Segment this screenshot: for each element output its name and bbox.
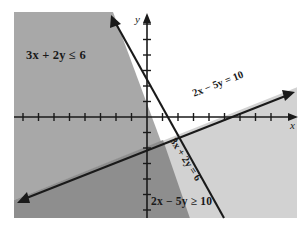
graph-canvas (0, 0, 307, 228)
label-inequality-2x-minus-5y-ge-10: 2x − 5y ≥ 10 (151, 196, 212, 208)
inequality-graph-figure: 3x + 2y ≤ 6 2x − 5y ≥ 10 2x − 5y = 10 3x… (0, 0, 307, 228)
y-axis-label: y (135, 14, 140, 25)
x-axis-label: x (290, 120, 295, 131)
label-inequality-3x-plus-2y-le-6: 3x + 2y ≤ 6 (26, 49, 86, 62)
